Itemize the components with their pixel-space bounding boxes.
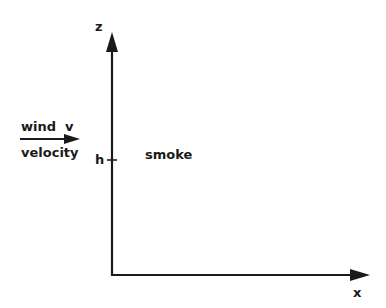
z-axis-label: z bbox=[95, 20, 103, 33]
diagram-canvas: z x h wind v velocity smoke bbox=[0, 0, 386, 308]
smoke-label: smoke bbox=[145, 148, 192, 161]
z-axis-arrowhead-icon bbox=[106, 32, 118, 52]
wind-label: wind v bbox=[21, 120, 74, 133]
height-label: h bbox=[95, 153, 104, 166]
velocity-label: velocity bbox=[21, 146, 79, 159]
x-axis-arrowhead-icon bbox=[350, 269, 370, 281]
x-axis-label: x bbox=[353, 286, 361, 299]
wind-arrow-icon bbox=[64, 134, 80, 144]
